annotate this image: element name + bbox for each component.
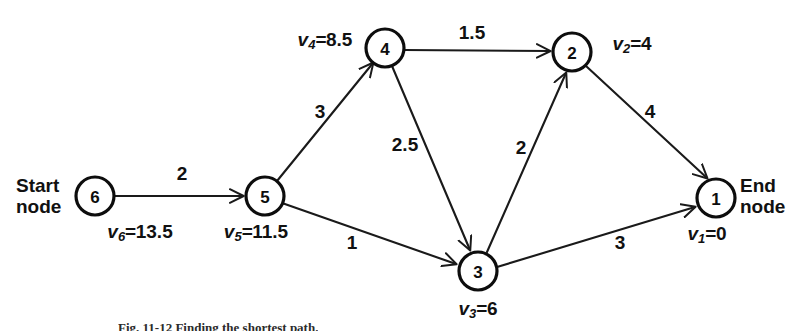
edge-weight-3-2: 2 [516,138,527,159]
figure-shortest-path-network: 6 5 4 2 3 1 Start [0,0,799,331]
node-2[interactable]: 2 [553,33,591,71]
node-value-5-var: v [224,221,235,242]
edge-3-to-2 [487,73,566,252]
node-value-4-sub: 4 [308,37,315,52]
node-value-1: v1=0 [688,224,727,247]
node-value-4-eq: = [315,29,326,50]
node-4-label: 4 [380,40,390,59]
node-value-3-var: v [459,298,470,319]
node-value-6-sub: 6 [118,229,125,244]
figure-caption: Fig. 11-12 Finding the shortest path. [118,320,318,331]
end-node-annotation: End node [740,176,785,217]
edge-weight-5-4: 3 [315,102,326,123]
node-value-2-eq: = [630,33,641,54]
node-value-4: v4=8.5 [298,30,353,53]
edge-5-to-3 [282,203,456,264]
node-value-3-num: 6 [487,298,498,319]
node-value-6-eq: = [125,221,136,242]
edge-weight-4-3: 2.5 [392,135,419,156]
node-5[interactable]: 5 [246,177,284,215]
start-node-line1: Start [16,176,61,197]
edge-weight-2-1: 4 [645,102,656,123]
node-5-label: 5 [260,188,269,207]
node-value-4-num: 8.5 [326,29,352,50]
end-node-line2: node [740,197,785,218]
node-value-1-eq: = [705,223,716,244]
node-value-6-num: 13.5 [136,221,173,242]
edge-4-to-2 [404,50,550,51]
node-4[interactable]: 4 [366,29,404,67]
node-value-3: v3=6 [459,299,498,322]
edge-3-to-1 [497,207,695,267]
node-value-5-num: 11.5 [252,221,288,242]
edge-weight-4-2: 1.5 [459,23,486,44]
node-value-2: v2=4 [613,34,652,57]
node-3[interactable]: 3 [459,252,497,290]
node-value-6: v6=13.5 [107,222,172,245]
node-value-3-eq: = [476,298,487,319]
node-2-label: 2 [567,44,576,63]
nodes-layer: 6 5 4 2 3 1 [76,29,735,290]
node-3-label: 3 [473,263,482,282]
edge-weight-5-3: 1 [347,233,358,254]
node-value-2-num: 4 [641,33,652,54]
edge-4-to-3 [392,66,470,250]
node-value-5: v5=11.5 [224,222,288,245]
node-1[interactable]: 1 [697,179,735,217]
start-node-annotation: Start node [16,176,61,217]
node-value-4-var: v [298,29,309,50]
node-value-1-var: v [688,223,699,244]
node-value-2-sub: 2 [623,41,630,56]
node-6-label: 6 [90,188,99,207]
edge-weight-6-5: 2 [177,164,188,185]
edge-weight-3-1: 3 [615,233,626,254]
node-6[interactable]: 6 [76,177,114,215]
start-node-line2: node [16,197,61,218]
node-value-5-eq: = [242,221,253,242]
network-graph: 6 5 4 2 3 1 [0,0,799,331]
node-value-2-var: v [613,33,624,54]
node-value-5-sub: 5 [234,229,241,244]
node-value-1-sub: 1 [698,231,705,246]
node-value-1-num: 0 [716,223,727,244]
end-node-line1: End [740,176,785,197]
node-1-label: 1 [711,190,720,209]
node-value-6-var: v [107,221,118,242]
node-value-3-sub: 3 [469,306,476,321]
